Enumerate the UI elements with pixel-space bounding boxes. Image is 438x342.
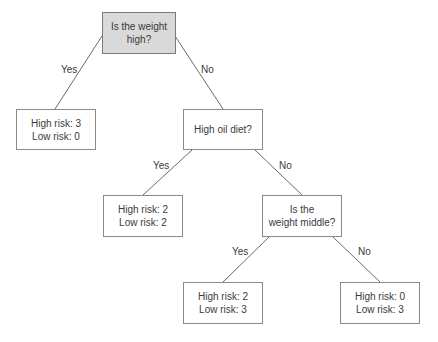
edge-oil-yes (143, 150, 192, 195)
root-question-line1: Is the weight (111, 20, 167, 33)
leaf-node-middle-yes: High risk: 2 Low risk: 3 (183, 282, 263, 324)
root-question-node: Is the weight high? (102, 12, 176, 54)
edge-oil-no (255, 150, 302, 195)
edge-middle-yes (223, 236, 270, 282)
edge-label-root-yes: Yes (61, 64, 77, 75)
weight-middle-line2: weight middle? (269, 216, 336, 229)
weight-middle-line1: Is the (290, 203, 314, 216)
leaf-high-risk: High risk: 2 (198, 290, 248, 303)
leaf-node-weight-high-yes: High risk: 3 Low risk: 0 (16, 109, 96, 150)
oil-diet-question-text: High oil diet? (194, 123, 252, 136)
leaf-node-oil-yes: High risk: 2 Low risk: 2 (103, 195, 183, 237)
weight-middle-question-node: Is the weight middle? (262, 195, 342, 237)
edge-label-oil-no: No (279, 160, 292, 171)
leaf-high-risk: High risk: 0 (355, 290, 405, 303)
leaf-low-risk: Low risk: 2 (119, 216, 167, 229)
leaf-high-risk: High risk: 2 (118, 203, 168, 216)
leaf-low-risk: Low risk: 3 (199, 303, 247, 316)
leaf-high-risk: High risk: 3 (31, 117, 81, 130)
edge-label-middle-yes: Yes (232, 246, 248, 257)
edge-label-oil-yes: Yes (153, 160, 169, 171)
leaf-node-middle-no: High risk: 0 Low risk: 3 (340, 282, 420, 324)
root-question-line2: high? (127, 33, 151, 46)
oil-diet-question-node: High oil diet? (183, 109, 263, 150)
edge-middle-no (332, 236, 380, 282)
edge-root-no (175, 36, 223, 109)
leaf-low-risk: Low risk: 3 (356, 303, 404, 316)
edge-label-root-no: No (201, 64, 214, 75)
leaf-low-risk: Low risk: 0 (32, 130, 80, 143)
edge-label-middle-no: No (358, 246, 371, 257)
